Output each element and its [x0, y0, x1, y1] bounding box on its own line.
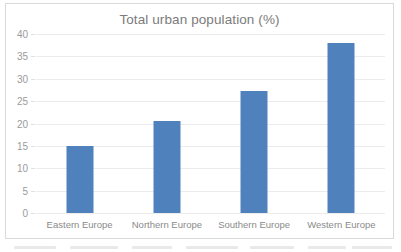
y-axis-tick-mark [31, 79, 35, 80]
y-axis-tick-label: 20 [17, 118, 28, 129]
scan-artifact [0, 244, 401, 252]
scan-smudge [308, 246, 346, 249]
scan-smudge [352, 246, 392, 249]
bars-group: Eastern EuropeNorthern EuropeSouthern Eu… [36, 34, 385, 213]
y-axis-tick-mark [31, 124, 35, 125]
chart-title: Total urban population (%) [6, 12, 393, 27]
y-axis-tick-label: 35 [17, 51, 28, 62]
y-axis-tick-mark [31, 191, 35, 192]
bar-slot: Eastern Europe [36, 34, 123, 213]
chart-frame: Total urban population (%) 0510152025303… [5, 3, 394, 239]
y-axis-tick-mark [31, 146, 35, 147]
y-axis-tick-label: 30 [17, 73, 28, 84]
plot-area: 0510152025303540 Eastern EuropeNorthern … [36, 34, 385, 213]
y-axis-tick-mark [31, 168, 35, 169]
bar-slot: Northern Europe [123, 34, 210, 213]
bar-slot: Western Europe [298, 34, 385, 213]
y-axis-tick-label: 25 [17, 96, 28, 107]
y-axis-tick-label: 15 [17, 140, 28, 151]
bar-slot: Southern Europe [211, 34, 298, 213]
y-axis-tick-mark [31, 56, 35, 57]
y-axis-tick-label: 40 [17, 29, 28, 40]
scan-smudge [14, 246, 56, 249]
scan-smudge [70, 246, 118, 249]
scan-smudge [132, 246, 172, 249]
scan-smudge [186, 246, 238, 249]
bar[interactable] [153, 121, 180, 213]
x-axis-tick-label: Eastern Europe [47, 219, 113, 230]
y-axis-tick-label: 10 [17, 163, 28, 174]
y-axis-tick-mark [31, 101, 35, 102]
x-axis-tick-label: Western Europe [307, 219, 375, 230]
scan-smudge [250, 246, 294, 249]
bar[interactable] [241, 91, 268, 213]
x-axis-tick-label: Southern Europe [218, 219, 290, 230]
gridline [36, 213, 385, 214]
y-axis-tick-label: 0 [22, 208, 28, 219]
bar[interactable] [328, 43, 355, 213]
y-axis-tick-mark [31, 213, 35, 214]
x-axis-tick-label: Northern Europe [132, 219, 202, 230]
y-axis-tick-mark [31, 34, 35, 35]
y-axis-tick-label: 5 [22, 185, 28, 196]
bar[interactable] [66, 146, 93, 213]
